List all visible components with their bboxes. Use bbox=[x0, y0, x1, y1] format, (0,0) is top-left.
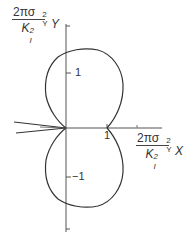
y-tick-label-1: 1 bbox=[75, 66, 81, 78]
y-axis-label-numerator: 2πσ2Y bbox=[12, 6, 45, 20]
y-denominator-base: K bbox=[22, 21, 30, 35]
y-numerator-text: 2πσ bbox=[13, 5, 35, 19]
x-tick-label-1: 1 bbox=[104, 129, 110, 141]
x-axis-variable: X bbox=[175, 144, 183, 158]
upper-lobe-curve bbox=[46, 49, 124, 128]
x-numerator-text: 2πσ bbox=[137, 131, 159, 145]
x-axis-label-numerator: 2πσ2Y bbox=[136, 132, 169, 146]
x-axis-label-fraction: 2πσ2Y K2I bbox=[136, 132, 169, 160]
y-axis-label-denominator: K2I bbox=[22, 20, 36, 34]
x-axis-label-denominator: K2I bbox=[146, 146, 160, 160]
wedge-line-lower bbox=[16, 128, 66, 133]
lower-lobe-curve bbox=[46, 128, 124, 207]
plot-canvas bbox=[0, 0, 189, 247]
x-denominator-base: K bbox=[146, 147, 154, 161]
y-axis-label-fraction: 2πσ2Y K2I bbox=[12, 6, 45, 34]
y-tick-label-minus-1: −1 bbox=[72, 170, 85, 182]
y-axis-variable: Y bbox=[51, 17, 59, 31]
